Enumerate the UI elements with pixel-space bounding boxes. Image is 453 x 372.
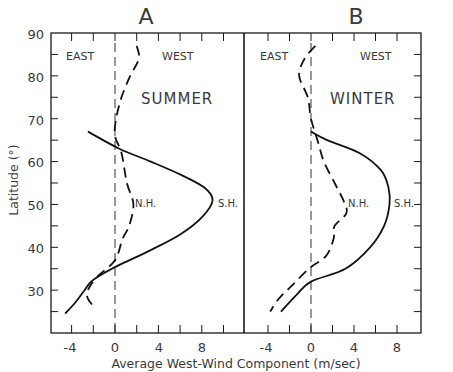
y-tick-label: 40 [27, 241, 44, 256]
x-tick-label: 4 [350, 340, 358, 355]
x-tick-label: 8 [198, 340, 206, 355]
y-tick-label: 50 [27, 198, 44, 213]
panel-a-season-label: SUMMER [141, 90, 213, 108]
y-tick-label: 70 [27, 113, 44, 128]
panel-b-sh-label: S.H. [394, 198, 414, 209]
y-tick-label: 60 [27, 155, 44, 170]
x-tick-label: 4 [155, 340, 163, 355]
panel-b-nh-label: N.H. [348, 198, 369, 209]
panel-b-sh-curve [281, 132, 390, 312]
x-tick-label: -4 [260, 340, 273, 355]
panel-a-title: A [138, 4, 153, 29]
plot-frame [51, 33, 421, 333]
x-tick-label: 0 [111, 340, 119, 355]
x-axis-ticks [72, 33, 397, 333]
panel-a-sh-label: S.H. [218, 198, 238, 209]
y-tick-label: 80 [27, 70, 44, 85]
wind-latitude-chart: A B EAST WEST EAST WEST SUMMER WINTER N.… [0, 0, 453, 372]
x-tick-label: 8 [393, 340, 401, 355]
panel-a-west-label: WEST [162, 50, 194, 63]
x-tick-label: -4 [64, 340, 77, 355]
panel-a-east-label: EAST [66, 50, 94, 63]
y-tick-labels: 90 80 70 60 50 40 30 [27, 27, 44, 299]
x-axis-title: Average West-Wind Component (m/sec) [111, 356, 360, 371]
y-axis-title: Latitude (°) [6, 144, 21, 215]
panel-b-west-label: WEST [360, 50, 392, 63]
panel-b-title: B [348, 4, 363, 29]
x-tick-label: 0 [307, 340, 315, 355]
panel-b-season-label: WINTER [330, 90, 396, 108]
panel-a-nh-label: N.H. [135, 198, 156, 209]
panel-b-east-label: EAST [260, 50, 288, 63]
y-tick-label: 90 [27, 27, 44, 42]
y-tick-label: 30 [27, 284, 44, 299]
panel-b-nh-curve [270, 46, 347, 312]
panel-a-sh-curve [65, 132, 213, 314]
